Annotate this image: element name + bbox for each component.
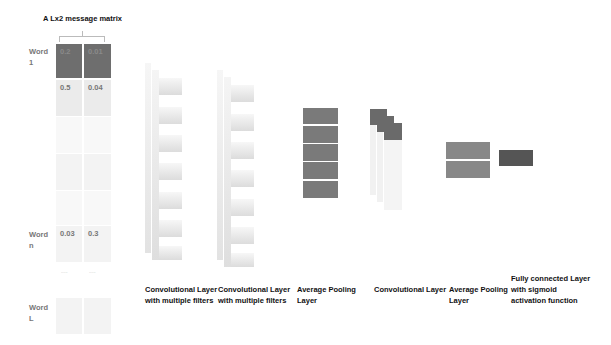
caption-pooling-layer-1: Average Pooling Layer [297, 284, 356, 306]
fully-connected-block [499, 150, 533, 166]
row-label-line: n [29, 240, 48, 251]
caption-conv-layer-1: Convolutional Layer with multiple filter… [145, 284, 217, 306]
matrix-cell [84, 298, 111, 334]
row-label-line: Word [29, 46, 48, 57]
pool-block [303, 126, 338, 143]
matrix-title: A Lx2 message matrix [43, 14, 122, 23]
caption-line: Convolutional Layer [145, 284, 217, 295]
feature-map [224, 77, 231, 267]
feature-map [231, 253, 254, 267]
caption-conv-layer-3: Convolutional Layer [374, 284, 446, 295]
feature-map [159, 163, 182, 180]
feature-map-faded [384, 140, 402, 210]
pool-block [446, 142, 490, 159]
feature-map [231, 114, 254, 131]
matrix-cell [84, 191, 111, 225]
feature-map-faded [370, 125, 376, 195]
pool-block [303, 181, 338, 198]
caption-line: Layer [449, 295, 508, 306]
matrix-cell: 0.04 [84, 80, 111, 116]
feature-map [217, 70, 223, 260]
feature-map [159, 220, 182, 237]
matrix-cell [56, 298, 82, 334]
feature-map [145, 63, 151, 253]
caption-line: Convolutional Layer [374, 284, 446, 295]
feature-map [152, 70, 159, 260]
matrix-cell: 0.01 [84, 44, 111, 78]
row-label-line: Word [29, 302, 48, 313]
feature-map [159, 78, 182, 95]
matrix-cell: 0.03 [56, 226, 82, 262]
caption-line: with multiple filters [145, 295, 217, 306]
matrix-cell: 0.2 [56, 44, 82, 78]
matrix-brace [59, 36, 105, 42]
caption-line: activation function [511, 295, 590, 306]
matrix-brace-tick [82, 31, 83, 36]
feature-map [231, 142, 254, 159]
caption-line: Layer [297, 295, 356, 306]
feature-map-faded [377, 132, 383, 202]
caption-line: with multiple filters [218, 295, 290, 306]
feature-map [159, 246, 182, 260]
pool-block [303, 108, 338, 124]
matrix-cell [56, 191, 82, 225]
row-label-word-n: Word n [29, 229, 48, 251]
feature-map [231, 199, 254, 216]
feature-map [231, 85, 254, 102]
feature-map [231, 227, 254, 244]
row-label-line: 1 [29, 57, 48, 68]
ellipsis: ...... [61, 269, 68, 274]
caption-conv-layer-2: Convolutional Layer with multiple filter… [218, 284, 290, 306]
caption-line: with sigmoid [511, 284, 590, 295]
pool-block [446, 161, 490, 178]
feature-map [159, 107, 182, 124]
matrix-cell [84, 117, 111, 153]
row-label-word-1: Word 1 [29, 46, 48, 68]
caption-pooling-layer-2: Average Pooling Layer [449, 284, 508, 306]
feature-map [159, 192, 182, 209]
matrix-cell: 0.3 [84, 226, 111, 262]
caption-line: Average Pooling [297, 284, 356, 295]
ellipsis: ...... [89, 269, 96, 274]
feature-map [159, 135, 182, 152]
matrix-cell: 0.5 [56, 80, 82, 116]
conv-block [384, 123, 402, 140]
pool-block [303, 162, 338, 179]
matrix-cell [56, 117, 82, 153]
row-label-word-L: Word L [29, 302, 48, 324]
caption-fully-connected-layer: Fully connected Layer with sigmoid activ… [511, 273, 590, 306]
feature-map [231, 170, 254, 187]
caption-line: Average Pooling [449, 284, 508, 295]
matrix-cell [56, 154, 82, 190]
row-label-line: Word [29, 229, 48, 240]
caption-line: Convolutional Layer [218, 284, 290, 295]
matrix-cell [84, 154, 111, 190]
row-label-line: L [29, 313, 48, 324]
pool-block [303, 144, 338, 161]
caption-line: Fully connected Layer [511, 273, 590, 284]
